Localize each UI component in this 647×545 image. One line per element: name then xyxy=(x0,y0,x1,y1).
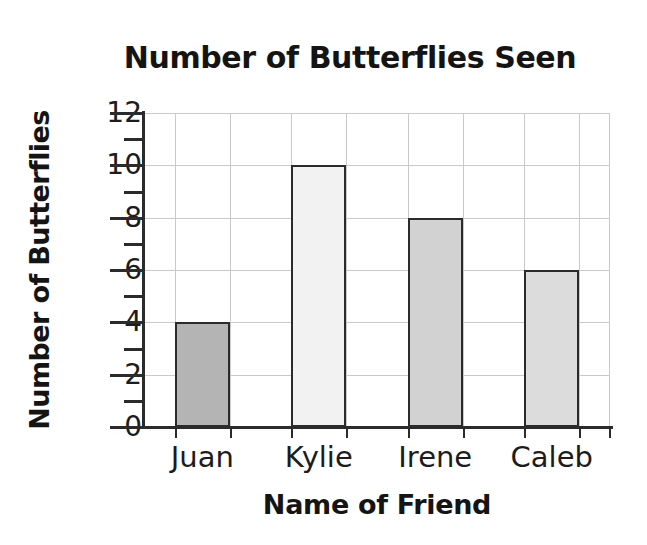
y-tick-minor xyxy=(124,191,144,194)
y-tick-major xyxy=(110,321,144,324)
gridline-horizontal xyxy=(144,165,610,166)
chart-title: Number of Butterflies Seen xyxy=(60,40,640,75)
bar-caleb[interactable] xyxy=(524,270,579,427)
bar-chart-figure: ·· ·· ·· ··· ···· ·· · Number of Butterf… xyxy=(0,0,647,545)
x-tick xyxy=(291,429,293,438)
gridline-vertical xyxy=(579,113,580,427)
x-tick xyxy=(175,429,177,438)
x-tick xyxy=(463,429,465,438)
x-axis-spine xyxy=(110,426,613,429)
x-tick xyxy=(230,429,232,438)
y-tick-minor xyxy=(124,138,144,141)
y-tick-major xyxy=(110,112,144,115)
bar-kylie[interactable] xyxy=(291,165,346,427)
y-tick-minor xyxy=(124,348,144,351)
gridline-horizontal xyxy=(144,113,610,114)
gridline-vertical xyxy=(230,113,231,427)
bar-irene[interactable] xyxy=(408,218,463,427)
y-tick-major xyxy=(110,374,144,377)
y-tick-major xyxy=(110,426,144,429)
y-tick-minor xyxy=(124,295,144,298)
y-tick-major xyxy=(110,217,144,220)
gridline-vertical xyxy=(463,113,464,427)
x-tick-label-caleb: Caleb xyxy=(482,440,622,474)
x-tick xyxy=(609,429,611,438)
y-tick-minor xyxy=(124,400,144,403)
y-tick-major xyxy=(110,164,144,167)
x-tick xyxy=(346,429,348,438)
y-axis-tick-labels: 024681012 xyxy=(50,0,142,545)
x-tick xyxy=(408,429,410,438)
gridline-vertical xyxy=(609,113,610,427)
x-tick xyxy=(524,429,526,438)
y-tick-minor xyxy=(124,243,144,246)
x-tick xyxy=(579,429,581,438)
y-tick-major xyxy=(110,269,144,272)
gridline-vertical xyxy=(346,113,347,427)
bar-juan[interactable] xyxy=(175,322,230,427)
gridline-horizontal xyxy=(144,218,610,219)
plot-area xyxy=(144,113,610,427)
x-axis-title: Name of Friend xyxy=(144,489,610,520)
